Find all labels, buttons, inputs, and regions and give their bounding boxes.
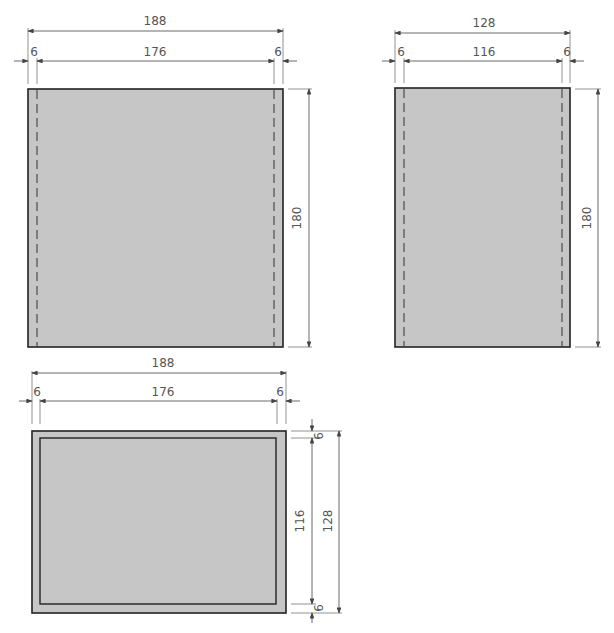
dim-inner-width: 116	[473, 45, 496, 59]
dim-height: 180	[290, 207, 304, 230]
dim-right-offset: 6	[274, 45, 282, 59]
dim-height: 180	[580, 207, 594, 230]
dim-right-offset: 6	[563, 45, 571, 59]
dim-overall-width: 128	[473, 16, 496, 30]
dim-top-offset: 6	[312, 432, 326, 440]
top-view-body	[32, 431, 286, 613]
dim-overall-width: 188	[144, 14, 167, 28]
top-view: 188 176 6 6 116 128 6 6	[19, 356, 342, 623]
front-view-body	[28, 89, 283, 347]
side-view: 128 116 6 6 180	[382, 16, 601, 347]
dim-left-offset: 6	[33, 385, 41, 399]
technical-drawing: 188 176 6 6 180 128 116 6 6 180	[0, 0, 614, 633]
dim-overall-width: 188	[152, 356, 175, 370]
front-view: 188 176 6 6 180	[14, 14, 312, 347]
dim-right-offset: 6	[276, 385, 284, 399]
dim-left-offset: 6	[30, 45, 38, 59]
dim-bottom-offset: 6	[312, 604, 326, 612]
dim-overall-depth: 128	[321, 510, 335, 533]
dim-left-offset: 6	[397, 45, 405, 59]
dim-inner-width: 176	[144, 45, 167, 59]
side-view-body	[395, 88, 570, 347]
dim-inner-depth: 116	[293, 510, 307, 533]
dim-inner-width: 176	[152, 385, 175, 399]
